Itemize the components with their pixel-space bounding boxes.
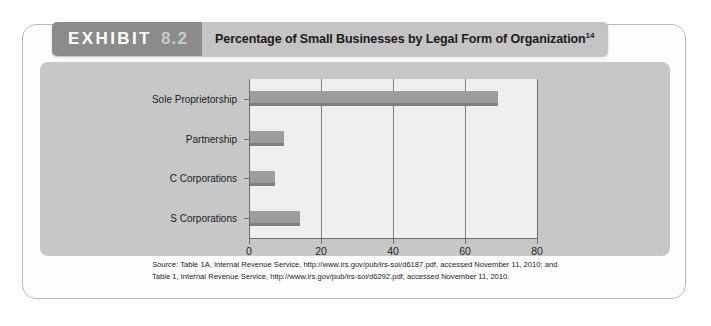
source-line-1-text: Table 1A, Internal Revenue Service, http…: [178, 260, 557, 269]
x-axis-tick: [249, 239, 250, 244]
y-axis-tick: [244, 178, 249, 179]
exhibit-figure: EXHIBIT 8.2 Percentage of Small Business…: [0, 0, 711, 326]
source-note: Source: Table 1A, Internal Revenue Servi…: [152, 259, 652, 284]
bar: [250, 211, 300, 226]
exhibit-title-block: Percentage of Small Businesses by Legal …: [202, 22, 608, 56]
bar: [250, 91, 498, 106]
bar: [250, 171, 275, 186]
x-axis-tick: [321, 239, 322, 244]
exhibit-label: EXHIBIT: [68, 29, 152, 49]
y-axis-tick: [244, 218, 249, 219]
x-axis-tick: [465, 239, 466, 244]
chart-panel: 020406080Sole ProprietorshipPartnershipC…: [40, 62, 670, 256]
exhibit-tag: EXHIBIT 8.2: [52, 22, 202, 56]
exhibit-header: EXHIBIT 8.2 Percentage of Small Business…: [52, 22, 608, 56]
bar-chart: 020406080Sole ProprietorshipPartnershipC…: [40, 62, 670, 256]
source-label: Source:: [152, 260, 178, 269]
x-axis-tick: [537, 239, 538, 244]
category-label: C Corporations: [170, 173, 237, 184]
y-axis-tick: [244, 139, 249, 140]
source-note-line-1: Source: Table 1A, Internal Revenue Servi…: [152, 259, 652, 271]
y-axis-tick: [244, 99, 249, 100]
exhibit-title: Percentage of Small Businesses by Legal …: [215, 31, 594, 46]
category-label: Sole Proprietorship: [152, 94, 237, 105]
exhibit-number: 8.2: [161, 29, 188, 49]
exhibit-title-footnote-marker: 14: [586, 31, 595, 40]
bar: [250, 131, 284, 146]
x-axis-tick-label: 0: [246, 245, 252, 257]
category-label: S Corporations: [170, 213, 237, 224]
x-axis-tick-label: 20: [315, 245, 327, 257]
x-axis-tick: [393, 239, 394, 244]
source-note-line-2: Table 1, Internal Revenue Service, http:…: [152, 271, 652, 283]
x-axis-tick-label: 80: [531, 245, 543, 257]
exhibit-title-text: Percentage of Small Businesses by Legal …: [215, 33, 585, 47]
category-label: Partnership: [186, 134, 237, 145]
x-axis-tick-label: 60: [459, 245, 471, 257]
x-axis-tick-label: 40: [387, 245, 399, 257]
